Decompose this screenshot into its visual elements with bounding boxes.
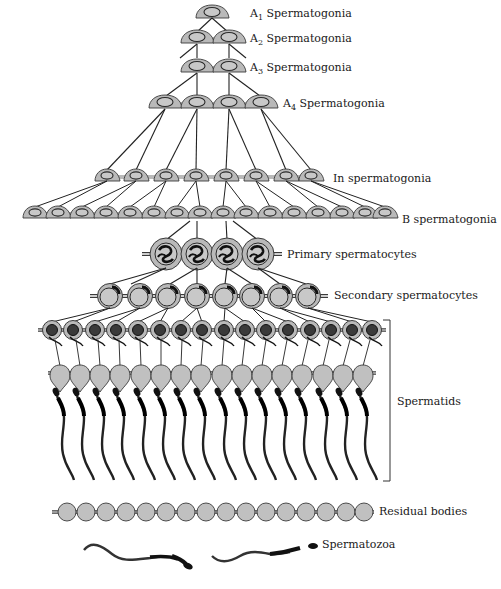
lineage-lines-a4-in xyxy=(107,109,311,170)
spermatids-bracket xyxy=(383,320,390,481)
label-spermatids: Spermatids xyxy=(397,396,461,407)
label-a4-spermatogonia: A4 Spermatogonia xyxy=(283,98,385,112)
lineage-lines-a2-a3 xyxy=(180,44,246,58)
lineage-lines-b-primary xyxy=(166,221,258,240)
spermatozoa xyxy=(84,543,318,571)
lineage-lines-a3-a4 xyxy=(166,73,260,96)
label-secondary-spermatocytes: Secondary spermatocytes xyxy=(334,290,478,301)
label-a1-spermatogonia: A1 Spermatogonia xyxy=(250,8,352,22)
a3-spermatogonia-row xyxy=(181,59,246,72)
label-primary-spermatocytes: Primary spermatocytes xyxy=(287,249,417,260)
a2-spermatogonia-row xyxy=(181,30,246,43)
label-a1-rest: Spermatogonia xyxy=(263,7,352,20)
early-spermatids-row xyxy=(38,321,386,347)
lineage-lines-a1-a2 xyxy=(197,18,228,32)
label-a1-letter: A xyxy=(250,7,258,20)
label-a4-rest: Spermatogonia xyxy=(296,97,385,110)
lineage-lines-secondary-spermatids xyxy=(52,308,372,322)
a4-spermatogonia-row xyxy=(149,95,278,108)
label-a2-letter: A xyxy=(250,32,258,45)
label-spermatozoa: Spermatozoa xyxy=(322,539,395,550)
b-spermatogonia-row xyxy=(23,206,398,218)
in-spermatogonia-row xyxy=(95,169,324,181)
lineage-lines-primary-secondary xyxy=(110,268,306,284)
label-in-spermatogonia: In spermatogonia xyxy=(333,173,431,184)
label-a2-rest: Spermatogonia xyxy=(263,32,352,45)
secondary-spermatocytes-row xyxy=(90,284,328,309)
label-residual-bodies: Residual bodies xyxy=(379,506,467,517)
label-a3-rest: Spermatogonia xyxy=(263,61,352,74)
late-spermatids-row xyxy=(48,365,377,480)
primary-spermatocytes-row xyxy=(142,238,282,270)
label-a4-letter: A xyxy=(283,97,291,110)
label-a3-letter: A xyxy=(250,61,258,74)
label-b-spermatogonia: B spermatogonia xyxy=(402,214,497,225)
residual-bodies-row xyxy=(52,503,374,521)
label-a2-spermatogonia: A2 Spermatogonia xyxy=(250,33,352,47)
a1-spermatogonia-row xyxy=(196,5,229,18)
label-a3-spermatogonia: A3 Spermatogonia xyxy=(250,62,352,76)
